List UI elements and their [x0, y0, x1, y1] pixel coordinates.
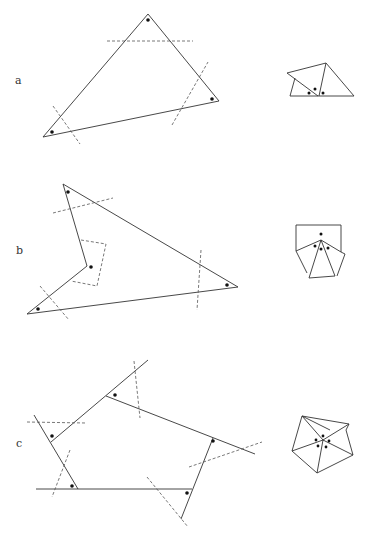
- angle-marker: [314, 88, 317, 91]
- cut-line-reflex: [71, 240, 106, 286]
- figure-b: [27, 184, 238, 320]
- figure-c: [27, 360, 262, 527]
- figure-b-rearranged: [296, 225, 345, 278]
- figure-a: [43, 14, 219, 144]
- cut-line-right: [172, 62, 208, 125]
- angle-marker: [225, 283, 229, 287]
- angle-marker: [50, 130, 54, 134]
- angle-marker: [308, 92, 311, 95]
- side-extended: [51, 360, 148, 442]
- cut-line-left: [40, 286, 69, 320]
- diagram-canvas: [0, 0, 373, 539]
- cut-line-right: [197, 250, 201, 310]
- angle-marker: [210, 97, 214, 101]
- angle-marker: [322, 92, 325, 95]
- cut-line-top: [53, 198, 113, 213]
- angle-marker: [146, 18, 150, 22]
- cut-line-left: [53, 106, 80, 144]
- angle-marker: [66, 190, 70, 194]
- figure-c-rearranged: [292, 416, 353, 473]
- side-extended: [34, 415, 78, 489]
- side-extended: [181, 438, 213, 519]
- angle-marker: [89, 265, 93, 269]
- angle-marker: [36, 307, 40, 311]
- triangle-a: [43, 14, 219, 137]
- figure-a-rearranged: [287, 63, 354, 96]
- side-extended: [106, 396, 255, 454]
- quadrilateral-b: [27, 184, 238, 314]
